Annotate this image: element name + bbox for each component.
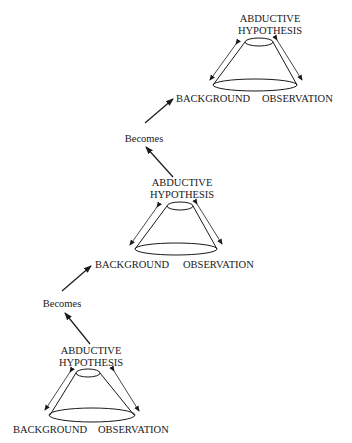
background-label: BACKGROUND xyxy=(176,93,251,104)
observation-label: OBSERVATION xyxy=(183,259,254,270)
stage-top: ABDUCTIVE HYPOTHESIS BACKGROUND OBSERVAT… xyxy=(176,13,333,104)
stage-bottom: ABDUCTIVE HYPOTHESIS BACKGROUND OBSERVAT… xyxy=(13,345,169,435)
stage-middle: ABDUCTIVE HYPOTHESIS BACKGROUND OBSERVAT… xyxy=(95,177,254,270)
bidirectional-arrow-left xyxy=(130,207,157,245)
transition-middle-to-top: Becomes xyxy=(125,99,173,177)
cone-shape xyxy=(213,38,297,91)
cone-shape xyxy=(49,369,135,422)
hypothesis-label-line2: HYPOTHESIS xyxy=(238,25,302,36)
arrow-up-icon xyxy=(146,147,173,177)
abduction-diagram: ABDUCTIVE HYPOTHESIS BACKGROUND OBSERVAT… xyxy=(0,0,352,443)
hypothesis-label-line1: ABDUCTIVE xyxy=(240,13,301,24)
cone-shape xyxy=(135,202,217,255)
arrow-up-icon xyxy=(145,99,173,123)
hypothesis-label-line1: ABDUCTIVE xyxy=(61,345,122,356)
background-label: BACKGROUND xyxy=(95,259,170,270)
bidirectional-arrow-right xyxy=(197,204,222,244)
hypothesis-label-line1: ABDUCTIVE xyxy=(152,177,213,188)
bidirectional-arrow-left xyxy=(45,372,70,410)
observation-label: OBSERVATION xyxy=(262,93,333,104)
bidirectional-arrow-right xyxy=(277,40,302,80)
hypothesis-label-line2: HYPOTHESIS xyxy=(150,189,214,200)
transition-bottom-to-middle: Becomes xyxy=(43,266,91,344)
becomes-label: Becomes xyxy=(43,298,82,309)
becomes-label: Becomes xyxy=(125,133,164,144)
arrow-up-icon xyxy=(62,266,91,291)
background-label: BACKGROUND xyxy=(13,424,88,435)
hypothesis-label-line2: HYPOTHESIS xyxy=(59,357,123,368)
arrow-up-icon xyxy=(65,313,90,344)
observation-label: OBSERVATION xyxy=(98,424,169,435)
bidirectional-arrow-left xyxy=(210,44,236,80)
